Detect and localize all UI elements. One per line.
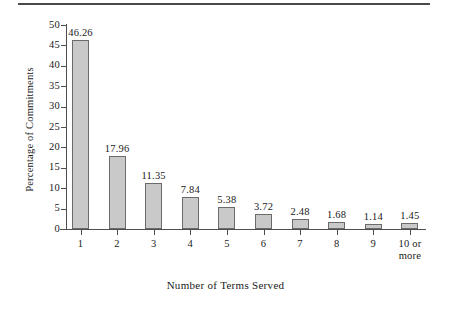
y-axis-title: Percentage of Commitments: [24, 35, 35, 225]
x-axis-tick: [373, 230, 374, 235]
x-axis-title: Number of Terms Served: [0, 279, 451, 291]
bar-chart-plot-area: 05101520253035404550 46.2617.9611.357.84…: [0, 0, 451, 312]
bar: [109, 156, 126, 229]
x-axis-tick: [337, 230, 338, 235]
y-axis-tick: [61, 209, 66, 210]
bar-value-label: 46.26: [56, 27, 106, 38]
y-axis-tick-label: 35: [40, 81, 60, 92]
bar: [72, 40, 89, 229]
bar: [292, 219, 309, 229]
y-axis-line: [66, 24, 67, 230]
y-axis-tick-label: 45: [40, 40, 60, 51]
y-axis-tick-label: 10: [40, 183, 60, 194]
y-axis-tick: [61, 168, 66, 169]
y-axis-tick: [61, 127, 66, 128]
bar: [365, 224, 382, 229]
x-axis-tick: [190, 230, 191, 235]
x-axis-tick: [227, 230, 228, 235]
y-axis-tick: [61, 107, 66, 108]
bar-value-label: 11.35: [129, 170, 179, 181]
bar: [182, 197, 199, 229]
x-axis-category-label: 10 or more: [385, 238, 435, 262]
x-axis-tick: [264, 230, 265, 235]
bar: [401, 223, 418, 229]
x-axis-tick: [117, 230, 118, 235]
x-axis-tick: [81, 230, 82, 235]
y-axis-tick: [61, 86, 66, 87]
y-axis-tick-label: 5: [40, 203, 60, 214]
bar: [218, 207, 235, 229]
bar: [255, 214, 272, 229]
y-axis-tick-label: 30: [40, 101, 60, 112]
y-axis-tick-label: 40: [40, 60, 60, 71]
bar-value-label: 1.45: [385, 210, 435, 221]
x-axis-line: [60, 229, 426, 230]
y-axis-tick-label: 0: [40, 224, 60, 235]
y-axis-tick: [61, 188, 66, 189]
x-axis-tick: [300, 230, 301, 235]
y-axis-tick: [61, 66, 66, 67]
y-axis-tick: [61, 229, 66, 230]
y-axis-tick: [61, 147, 66, 148]
bar-value-label: 17.96: [92, 143, 142, 154]
y-axis-tick-label: 15: [40, 162, 60, 173]
y-axis-tick-label: 20: [40, 142, 60, 153]
bar: [328, 222, 345, 229]
y-axis-tick: [61, 45, 66, 46]
figure: 05101520253035404550 46.2617.9611.357.84…: [0, 0, 451, 312]
x-axis-tick: [154, 230, 155, 235]
y-axis-tick: [61, 25, 66, 26]
x-axis-tick: [410, 230, 411, 235]
bar: [145, 183, 162, 229]
y-axis-tick-label: 25: [40, 122, 60, 133]
